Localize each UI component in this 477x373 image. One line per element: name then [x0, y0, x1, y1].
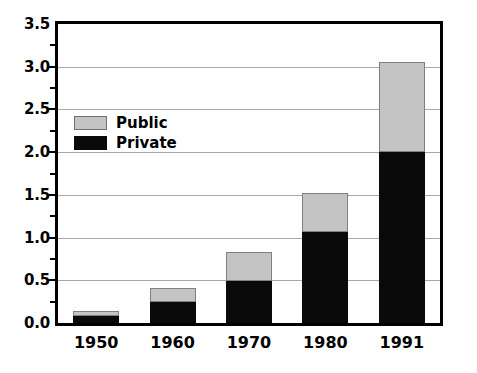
- bar-1960: [150, 288, 196, 323]
- bar-segment-private: [302, 232, 348, 323]
- legend-label: Public: [116, 116, 168, 131]
- y-tick-major: [48, 279, 55, 281]
- y-tick-major: [48, 237, 55, 239]
- bar-1970: [226, 252, 272, 323]
- y-tick-label: 3.5: [4, 15, 50, 33]
- x-tick-label-1991: 1991: [364, 333, 440, 352]
- bar-segment-private: [73, 316, 119, 323]
- legend-label: Private: [116, 136, 177, 151]
- plot-area: PublicPrivate: [55, 21, 443, 326]
- legend-swatch-public-icon: [74, 116, 107, 130]
- bar-segment-public: [302, 193, 348, 231]
- bar-1950: [73, 311, 119, 323]
- x-tick-label-1980: 1980: [287, 333, 363, 352]
- y-tick-label: 0.0: [4, 314, 50, 332]
- bar-segment-private: [379, 152, 425, 323]
- chart-legend: PublicPrivate: [74, 114, 177, 154]
- y-tick-major: [48, 151, 55, 153]
- bar-segment-public: [150, 288, 196, 302]
- x-tick-label-1970: 1970: [211, 333, 287, 352]
- legend-item-public: Public: [74, 114, 177, 132]
- x-tick-label-1950: 1950: [58, 333, 134, 352]
- y-tick-label: 2.5: [4, 100, 50, 118]
- y-tick-label: 3.0: [4, 58, 50, 76]
- y-tick-major: [48, 108, 55, 110]
- plot-inner: PublicPrivate: [58, 24, 440, 323]
- y-tick-major: [48, 194, 55, 196]
- y-tick-label: 1.0: [4, 229, 50, 247]
- y-tick-major: [48, 66, 55, 68]
- x-tick-label-1960: 1960: [134, 333, 210, 352]
- y-tick-label: 1.5: [4, 186, 50, 204]
- bar-segment-public: [226, 252, 272, 281]
- bar-segment-private: [150, 302, 196, 323]
- bar-1980: [302, 193, 348, 323]
- y-tick-label: 0.5: [4, 271, 50, 289]
- stacked-bar-chart: 0.00.51.01.52.02.53.03.5 PublicPrivate 1…: [0, 0, 477, 373]
- bar-1991: [379, 62, 425, 323]
- bar-segment-public: [379, 62, 425, 153]
- legend-swatch-private-icon: [74, 136, 107, 150]
- legend-item-private: Private: [74, 134, 177, 152]
- bar-segment-private: [226, 281, 272, 323]
- y-tick-label: 2.0: [4, 143, 50, 161]
